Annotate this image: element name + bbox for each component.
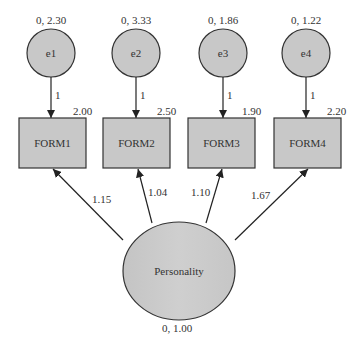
error-e1: 0, 2.30 e1 1 [27, 14, 75, 118]
e3-label: e3 [218, 47, 229, 59]
indicator-form3: 1.90 FORM3 [188, 105, 262, 168]
e1-path-label: 1 [55, 89, 61, 101]
form1-label: FORM1 [34, 137, 71, 149]
indicator-form2: 2.50 FORM2 [103, 105, 177, 168]
form3-intercept: 1.90 [242, 105, 262, 117]
latent-label: Personality [154, 265, 204, 277]
error-e2: 0, 3.33 e2 1 [112, 14, 160, 118]
loading-form3: 1.10 [191, 186, 211, 198]
indicator-form1: 2.00 FORM1 [19, 105, 93, 168]
e4-label: e4 [301, 47, 312, 59]
e1-label: e1 [46, 47, 56, 59]
error-e3: 0, 1.86 e3 1 [199, 14, 247, 118]
indicator-form4: 2.20 FORM4 [274, 105, 347, 168]
form4-label: FORM4 [289, 137, 326, 149]
e3-params: 0, 1.86 [208, 14, 239, 26]
e2-label: e2 [131, 47, 141, 59]
sem-diagram: 0, 2.30 e1 1 0, 3.33 e2 1 0, 1.86 e3 1 0… [0, 0, 359, 346]
form4-intercept: 2.20 [327, 105, 347, 117]
error-e4: 0, 1.22 e4 1 [282, 14, 330, 118]
e3-path-label: 1 [227, 89, 233, 101]
e4-path-label: 1 [310, 89, 316, 101]
loading-path-form1 [53, 169, 123, 240]
latent-params: 0, 1.00 [162, 322, 193, 334]
form1-intercept: 2.00 [73, 105, 93, 117]
latent-personality: Personality 0, 1.00 [123, 222, 235, 334]
e4-params: 0, 1.22 [291, 14, 321, 26]
loading-form4: 1.67 [251, 189, 271, 201]
loading-form1: 1.15 [92, 193, 112, 205]
e1-params: 0, 2.30 [36, 14, 67, 26]
form2-label: FORM2 [118, 137, 155, 149]
loading-form2: 1.04 [148, 186, 168, 198]
loading-path-form4 [235, 169, 308, 240]
form3-label: FORM3 [203, 137, 240, 149]
e2-path-label: 1 [140, 89, 146, 101]
form2-intercept: 2.50 [157, 105, 177, 117]
e2-params: 0, 3.33 [121, 14, 152, 26]
